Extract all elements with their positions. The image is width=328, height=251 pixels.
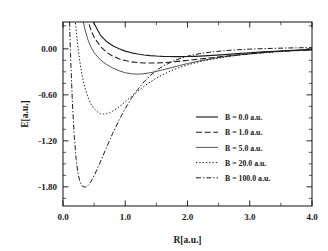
y-tick-label-0: 0.00 (41, 44, 57, 54)
x-tick-label-4: 4.0 (306, 212, 318, 222)
potential-energy-curve-figure: 0.01.02.03.04.0 0.00-0.60-1.20-1.80 R[a.… (0, 0, 328, 251)
y-axis-title: E[a.u.] (20, 100, 30, 127)
y-tick-label-2: -1.20 (38, 136, 57, 146)
curves-group (67, 0, 312, 187)
legend-label-2: B = 5.0 a.u. (225, 144, 262, 153)
x-tick-label-0: 0.0 (57, 212, 69, 222)
y-tick-label-1: -0.60 (38, 90, 57, 100)
legend-label-0: B = 0.0 a.u. (225, 113, 262, 122)
x-tick-label-2: 2.0 (182, 212, 194, 222)
legend-label-3: B = 20.0 a.u. (225, 159, 266, 168)
legend-label-1: B = 1.0 a.u. (225, 128, 262, 137)
x-tick-label-3: 3.0 (244, 212, 256, 222)
x-axis-title: R[a.u.] (174, 235, 202, 245)
legend: B = 0.0 a.u.B = 1.0 a.u.B = 5.0 a.u.B = … (196, 113, 270, 183)
y-tick-label-3: -1.80 (38, 182, 57, 192)
x-tick-label-1: 1.0 (120, 212, 132, 222)
curve-series-4 (67, 0, 312, 187)
curve-series-1 (75, 0, 312, 63)
y-tick-labels-group: 0.00-0.60-1.20-1.80 (38, 44, 57, 192)
curve-series-2 (72, 0, 312, 74)
x-tick-labels-group: 0.01.02.03.04.0 (57, 212, 318, 222)
curve-series-0 (79, 0, 312, 57)
legend-label-4: B = 100.0 a.u. (225, 174, 270, 183)
plot-canvas: 0.01.02.03.04.0 0.00-0.60-1.20-1.80 R[a.… (0, 0, 328, 251)
